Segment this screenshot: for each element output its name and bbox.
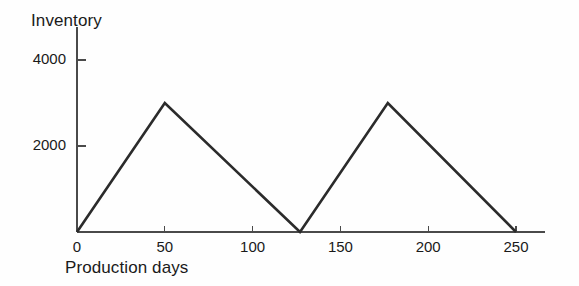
x-axis-title: Production days: [65, 258, 188, 278]
x-tick-label: 250: [493, 238, 539, 255]
inventory-chart: Inventory 20004000 050100150200250 Produ…: [0, 0, 579, 286]
x-tick-label: 100: [230, 238, 276, 255]
inventory-line: [77, 103, 516, 232]
x-tick-label: 0: [54, 238, 100, 255]
x-tick-label: 150: [317, 238, 363, 255]
y-tick-label: 4000: [0, 50, 66, 67]
x-tick-label: 50: [142, 238, 188, 255]
x-tick-label: 200: [405, 238, 451, 255]
tick-marks-group: [77, 60, 516, 232]
y-tick-label: 2000: [0, 136, 66, 153]
data-series-group: [77, 103, 516, 232]
